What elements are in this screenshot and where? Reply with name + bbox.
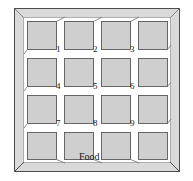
maze-block [139,22,168,50]
maze-block [102,133,131,160]
intersection-label-8: 8 [93,119,98,128]
maze-block [28,133,57,160]
maze-block [28,22,57,50]
intersection-label-7: 7 [56,119,61,128]
grid-maze-figure: 1 2 3 4 5 6 7 8 9 Food [0,0,193,181]
intersection-label-4: 4 [56,82,61,91]
intersection-label-3: 3 [130,45,135,54]
maze-block [65,96,94,124]
intersection-label-5: 5 [93,82,98,91]
intersection-label-1: 1 [56,45,61,54]
maze-block [102,22,131,50]
intersection-label-6: 6 [130,82,135,91]
maze-block [139,96,168,124]
maze-block [102,59,131,87]
food-label: Food [79,152,100,162]
intersection-label-2: 2 [93,45,98,54]
maze-block [65,22,94,50]
maze-block [28,59,57,87]
maze-block [139,59,168,87]
maze-block [102,96,131,124]
maze-block [28,96,57,124]
intersection-label-9: 9 [130,119,135,128]
maze-block [139,133,168,160]
maze-block [65,59,94,87]
